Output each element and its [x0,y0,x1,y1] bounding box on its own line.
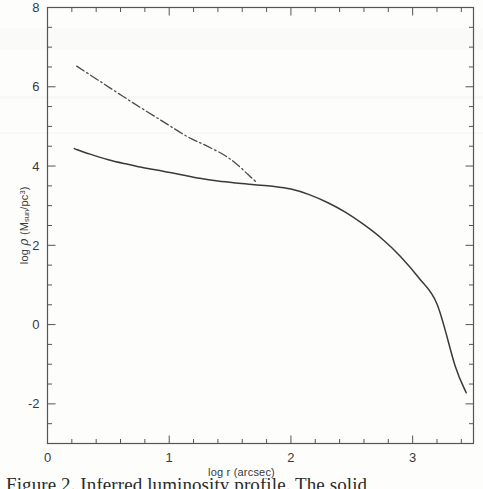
x-axis-tick-label: 0 [44,450,51,465]
y-axis-title-rho: ρ [17,238,31,245]
figure-caption-text: Figure 2. Inferred luminosity profile. T… [6,478,483,489]
y-axis-title-suffix: ) [18,186,30,190]
y-axis-tick-label: 2 [32,238,39,253]
x-axis-title: log r (arcsec) [0,466,483,478]
density-profile-figure: 0123-202468 log ρ (Msun/pc3) log r (arcs… [0,0,483,489]
curve-solid [74,149,466,393]
y-axis-title-slash: /pc [18,195,30,210]
y-axis-tick-label: 8 [32,0,39,15]
y-axis-title-superscript: 3 [18,190,27,194]
y-axis-tick-label: 0 [32,317,39,332]
x-axis-tick-label: 3 [409,450,416,465]
y-axis-title-mid: (M [18,222,30,238]
y-axis-tick-label: 6 [32,79,39,94]
x-axis-tick-label: 1 [166,450,173,465]
y-axis-tick-label: 4 [32,159,39,174]
chart-plot-area: 0123-202468 [0,0,483,489]
figure-caption-clipped: Figure 2. Inferred luminosity profile. T… [0,478,483,489]
y-axis-title-subscript: sun [22,210,31,222]
y-axis-tick-label: -2 [28,396,40,411]
y-axis-title: log ρ (Msun/pc3) [17,135,32,315]
curve-dash-dot [77,66,257,183]
x-axis-tick-label: 2 [287,450,294,465]
y-axis-title-prefix: log [18,246,30,265]
plot-frame [48,8,474,444]
